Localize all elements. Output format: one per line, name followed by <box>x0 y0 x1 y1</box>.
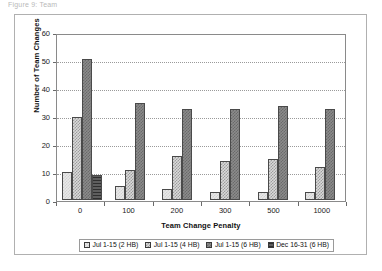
bar-group <box>106 36 154 200</box>
bar[interactable] <box>162 189 172 200</box>
bar[interactable] <box>305 192 315 200</box>
x-axis-labels: 01002003005001000 <box>56 206 346 215</box>
legend-swatch-icon <box>206 242 212 248</box>
bar[interactable] <box>82 59 92 200</box>
bar-group <box>249 36 297 200</box>
bar[interactable] <box>72 117 82 200</box>
bar[interactable] <box>315 167 325 200</box>
bar[interactable] <box>258 192 268 200</box>
bar[interactable] <box>220 161 230 200</box>
bar[interactable] <box>278 106 288 200</box>
legend-swatch-icon <box>84 242 90 248</box>
bar-group <box>201 36 249 200</box>
bar[interactable] <box>268 159 278 201</box>
bar-group <box>153 36 201 200</box>
bar-group <box>296 36 344 200</box>
bar[interactable] <box>135 103 145 200</box>
bar[interactable] <box>92 175 102 200</box>
bar-group <box>58 36 106 200</box>
bar[interactable] <box>210 192 220 200</box>
bar[interactable] <box>115 186 125 200</box>
x-tick-label: 300 <box>201 206 249 215</box>
y-tick-label: 50 <box>24 58 50 66</box>
x-tick-label: 1000 <box>298 206 346 215</box>
y-tick-label: 60 <box>24 30 50 38</box>
legend-item[interactable]: Jul 1-15 (2 HB) <box>84 242 138 249</box>
y-tick-label: 10 <box>24 170 50 178</box>
legend-item[interactable]: Jul 1-15 (4 HB) <box>145 242 199 249</box>
x-axis-title: Team Change Penalty <box>56 221 346 230</box>
legend-swatch-icon <box>145 242 151 248</box>
x-tick-label: 500 <box>249 206 297 215</box>
x-tick-label: 200 <box>153 206 201 215</box>
figure-caption-fragment: Figure 9: Team <box>8 0 138 9</box>
bar[interactable] <box>182 109 192 200</box>
legend-label: Jul 1-15 (2 HB) <box>93 242 139 249</box>
x-tick-mark <box>346 202 347 206</box>
bar[interactable] <box>172 156 182 200</box>
y-tick-label: 20 <box>24 142 50 150</box>
y-tick-label: 40 <box>24 86 50 94</box>
bar[interactable] <box>125 170 135 200</box>
chart-frame: Number of Team Changes 0102030405060 010… <box>14 14 367 255</box>
chart-legend: Jul 1-15 (2 HB)Jul 1-15 (4 HB)Jul 1-15 (… <box>79 239 334 252</box>
plot-area <box>56 34 346 202</box>
legend-item[interactable]: Dec 16-31 (6 HB) <box>268 242 329 249</box>
x-tick-label: 100 <box>104 206 152 215</box>
bar[interactable] <box>325 109 335 200</box>
x-tick-label: 0 <box>56 206 104 215</box>
bar-groups <box>58 36 344 200</box>
y-axis-title: Number of Team Changes <box>32 6 41 126</box>
y-tick-label: 30 <box>24 114 50 122</box>
y-tick-label: 0 <box>24 198 50 206</box>
bar[interactable] <box>230 109 240 200</box>
legend-swatch-icon <box>268 242 274 248</box>
legend-label: Jul 1-15 (6 HB) <box>215 242 261 249</box>
legend-item[interactable]: Jul 1-15 (6 HB) <box>206 242 260 249</box>
legend-label: Dec 16-31 (6 HB) <box>276 242 329 249</box>
bar[interactable] <box>62 172 72 200</box>
legend-label: Jul 1-15 (4 HB) <box>154 242 200 249</box>
